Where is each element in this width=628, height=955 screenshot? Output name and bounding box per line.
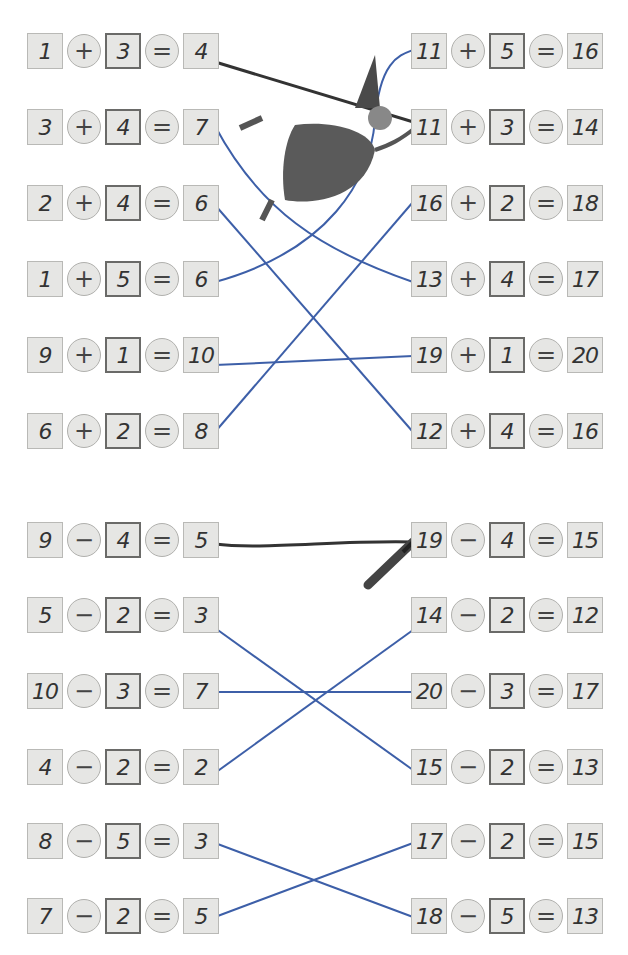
minus-operator: −: [67, 523, 101, 557]
subtrahend[interactable]: 2: [489, 749, 525, 785]
result: 3: [183, 597, 219, 633]
subtrahend[interactable]: 2: [489, 823, 525, 859]
minuend[interactable]: 14: [411, 597, 447, 633]
minus-operator: −: [451, 899, 485, 933]
minus-operator: −: [451, 523, 485, 557]
addend-a[interactable]: 13: [411, 261, 447, 297]
addend-a[interactable]: 11: [411, 33, 447, 69]
minuend[interactable]: 17: [411, 823, 447, 859]
addend-b[interactable]: 4: [489, 413, 525, 449]
addend-a[interactable]: 12: [411, 413, 447, 449]
subtrahend[interactable]: 4: [105, 522, 141, 558]
equals-sign: =: [529, 262, 563, 296]
plus-operator: +: [67, 338, 101, 372]
equals-sign: =: [145, 674, 179, 708]
match-line: [215, 630, 413, 773]
minuend[interactable]: 20: [411, 673, 447, 709]
plus-operator: +: [451, 338, 485, 372]
match-line: [215, 205, 413, 432]
addend-a[interactable]: 19: [411, 337, 447, 373]
equals-sign: =: [529, 899, 563, 933]
minuend: 4: [27, 749, 63, 785]
addend-b[interactable]: 1: [105, 337, 141, 373]
example-line-addition: [212, 61, 420, 124]
equals-sign: =: [529, 674, 563, 708]
result: 15: [567, 823, 603, 859]
equals-sign: =: [529, 598, 563, 632]
equals-sign: =: [145, 262, 179, 296]
addend-b[interactable]: 2: [105, 413, 141, 449]
result: 3: [183, 823, 219, 859]
minuend: 9: [27, 522, 63, 558]
addend-b[interactable]: 3: [105, 33, 141, 69]
plus-operator: +: [67, 186, 101, 220]
match-line: [215, 126, 413, 282]
equation-row: 15 − 2 = 13: [411, 748, 603, 786]
minus-operator: −: [67, 598, 101, 632]
addend-a[interactable]: 16: [411, 185, 447, 221]
addend-b[interactable]: 4: [105, 185, 141, 221]
equation-row: 13 + 4 = 17: [411, 260, 603, 298]
subtrahend[interactable]: 2: [105, 749, 141, 785]
subtrahend[interactable]: 3: [105, 673, 141, 709]
result: 15: [567, 522, 603, 558]
equation-row: 5 − 2 = 3: [27, 596, 219, 634]
minus-operator: −: [67, 824, 101, 858]
equals-sign: =: [145, 34, 179, 68]
plus-operator: +: [451, 186, 485, 220]
subtrahend[interactable]: 5: [105, 823, 141, 859]
result: 12: [567, 597, 603, 633]
equation-row: 11 + 3 = 14: [411, 108, 603, 146]
plus-operator: +: [67, 110, 101, 144]
equals-sign: =: [145, 523, 179, 557]
equals-sign: =: [145, 598, 179, 632]
addend-a: 6: [27, 413, 63, 449]
subtrahend[interactable]: 5: [489, 898, 525, 934]
subtrahend[interactable]: 2: [105, 898, 141, 934]
minus-operator: −: [67, 750, 101, 784]
addend-a: 1: [27, 33, 63, 69]
wizard-illustration: [240, 55, 415, 220]
addend-b[interactable]: 4: [489, 261, 525, 297]
result: 6: [183, 185, 219, 221]
result: 2: [183, 749, 219, 785]
subtrahend[interactable]: 3: [489, 673, 525, 709]
addend-b[interactable]: 5: [489, 33, 525, 69]
equation-row: 12 + 4 = 16: [411, 412, 603, 450]
plus-operator: +: [67, 262, 101, 296]
addend-b[interactable]: 5: [105, 261, 141, 297]
equation-row: 1 + 3 = 4: [27, 32, 219, 70]
equation-row: 17 − 2 = 15: [411, 822, 603, 860]
addend-a: 1: [27, 261, 63, 297]
addend-b[interactable]: 4: [105, 109, 141, 145]
subtrahend[interactable]: 2: [105, 597, 141, 633]
plus-operator: +: [67, 34, 101, 68]
addend-a: 3: [27, 109, 63, 145]
result: 16: [567, 33, 603, 69]
minus-operator: −: [67, 899, 101, 933]
plus-operator: +: [451, 110, 485, 144]
addend-a[interactable]: 11: [411, 109, 447, 145]
equals-sign: =: [145, 899, 179, 933]
subtrahend[interactable]: 2: [489, 597, 525, 633]
addend-a: 9: [27, 337, 63, 373]
equation-row: 2 + 4 = 6: [27, 184, 219, 222]
equals-sign: =: [529, 186, 563, 220]
pencil-icon: [368, 542, 413, 585]
match-line: [215, 628, 413, 770]
minuend: 10: [27, 673, 63, 709]
equation-row: 19 − 4 = 15: [411, 521, 603, 559]
addend-b[interactable]: 2: [489, 185, 525, 221]
addend-b[interactable]: 3: [489, 109, 525, 145]
minuend[interactable]: 18: [411, 898, 447, 934]
equation-row: 10 − 3 = 7: [27, 672, 219, 710]
equation-row: 11 + 5 = 16: [411, 32, 603, 70]
minuend[interactable]: 15: [411, 749, 447, 785]
equals-sign: =: [529, 824, 563, 858]
plus-operator: +: [67, 414, 101, 448]
result: 17: [567, 673, 603, 709]
result: 5: [183, 898, 219, 934]
minuend[interactable]: 19: [411, 522, 447, 558]
subtrahend[interactable]: 4: [489, 522, 525, 558]
addend-b[interactable]: 1: [489, 337, 525, 373]
